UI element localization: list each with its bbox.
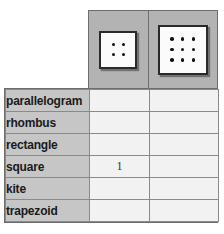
dot-slot (108, 40, 118, 50)
table-row: trapezoid (6, 200, 219, 222)
dot-slot (177, 34, 188, 45)
dot (192, 58, 196, 62)
dot (122, 53, 126, 57)
table-row: parallelogram (6, 90, 219, 112)
dot-grid-2x2-icon (99, 31, 137, 69)
row-label-trapezoid: trapezoid (6, 200, 90, 222)
dot (192, 37, 196, 41)
cell-kite-col2[interactable] (150, 178, 219, 200)
dot (112, 43, 116, 47)
row-label-rectangle: rectangle (6, 134, 90, 156)
dot-slot (188, 34, 199, 45)
table-row: square 1 (6, 156, 219, 178)
cell-parallelogram-col1[interactable] (90, 90, 150, 112)
column-header-dot-grid-3x3[interactable] (149, 11, 217, 88)
cell-rectangle-col2[interactable] (150, 134, 219, 156)
dot (192, 48, 196, 52)
table-header-row (88, 10, 218, 88)
dot-grid-3x3-icon (158, 25, 208, 75)
row-label-kite: kite (6, 178, 90, 200)
dot (122, 43, 126, 47)
dot-slot (177, 44, 188, 55)
cell-trapezoid-col2[interactable] (150, 200, 219, 222)
table-body: parallelogram rhombus rectangle square 1 (4, 88, 218, 223)
row-label-parallelogram: parallelogram (6, 90, 90, 112)
column-header-dot-grid-2x2[interactable] (89, 11, 149, 88)
cell-rhombus-col1[interactable] (90, 112, 150, 134)
dot-slot (167, 55, 178, 66)
dot (170, 48, 174, 52)
table-row: rhombus (6, 112, 219, 134)
dot-slot (188, 55, 199, 66)
dot-slot (118, 50, 128, 60)
dot-slot (108, 50, 118, 60)
dot-slot (167, 44, 178, 55)
dot (181, 48, 185, 52)
cell-kite-col1[interactable] (90, 178, 150, 200)
dot (112, 53, 116, 57)
table-row: kite (6, 178, 219, 200)
shape-dot-grid-table: parallelogram rhombus rectangle square 1 (0, 0, 224, 234)
cell-square-col1[interactable]: 1 (90, 156, 150, 178)
dot-slot (177, 55, 188, 66)
row-label-square: square (6, 156, 90, 178)
dot (170, 37, 174, 41)
dot-slot (118, 40, 128, 50)
dot-slot (167, 34, 178, 45)
dot (181, 58, 185, 62)
dot (170, 58, 174, 62)
row-label-rhombus: rhombus (6, 112, 90, 134)
cell-rectangle-col1[interactable] (90, 134, 150, 156)
cell-parallelogram-col2[interactable] (150, 90, 219, 112)
cell-square-col2[interactable] (150, 156, 219, 178)
cell-trapezoid-col1[interactable] (90, 200, 150, 222)
dot (181, 37, 185, 41)
cell-rhombus-col2[interactable] (150, 112, 219, 134)
table-row: rectangle (6, 134, 219, 156)
dot-slot (188, 44, 199, 55)
